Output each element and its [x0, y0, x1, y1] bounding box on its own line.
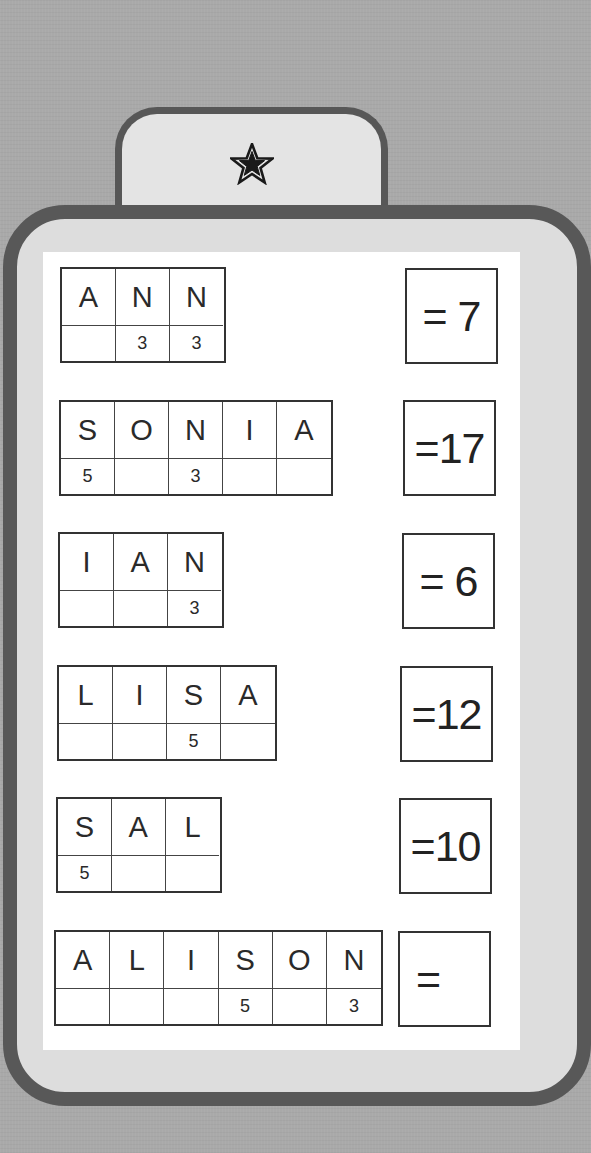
point-cell[interactable]: 3 — [170, 326, 224, 361]
point-cell[interactable] — [273, 989, 327, 1024]
answer-box[interactable]: = 6 — [402, 533, 495, 629]
letter-cell: N — [170, 269, 224, 326]
letter-grid: ALISON53 — [54, 930, 383, 1026]
answer-box[interactable]: = — [398, 931, 491, 1027]
letter-cell: A — [112, 799, 166, 856]
point-cell[interactable] — [223, 459, 277, 494]
point-cell[interactable] — [115, 459, 169, 494]
letter-grid: ANN33 — [60, 267, 226, 363]
point-cell[interactable]: 3 — [168, 591, 222, 626]
star-icon — [230, 143, 274, 185]
letter-cell: S — [58, 799, 112, 856]
point-cell[interactable] — [166, 856, 220, 891]
answer-box[interactable]: = 7 — [405, 268, 498, 364]
point-cell[interactable]: 3 — [169, 459, 223, 494]
letter-grid: LISA5 — [57, 665, 277, 761]
point-cell[interactable]: 3 — [116, 326, 170, 361]
answer-box[interactable]: =17 — [403, 400, 496, 496]
letter-cell: N — [168, 534, 222, 591]
letter-cell: L — [166, 799, 220, 856]
letter-cell: A — [221, 667, 275, 724]
point-cell[interactable] — [114, 591, 168, 626]
letter-cell: A — [277, 402, 331, 459]
letter-cell: I — [164, 932, 218, 989]
letter-cell: A — [114, 534, 168, 591]
point-cell[interactable] — [60, 591, 114, 626]
point-cell[interactable] — [110, 989, 164, 1024]
letter-cell: O — [273, 932, 327, 989]
letter-grid: SONIA53 — [59, 400, 333, 496]
answer-box[interactable]: =12 — [400, 666, 493, 762]
letter-cell: I — [113, 667, 167, 724]
point-cell[interactable] — [113, 724, 167, 759]
letter-cell: L — [110, 932, 164, 989]
letter-cell: L — [59, 667, 113, 724]
letter-cell: N — [116, 269, 170, 326]
point-cell[interactable] — [277, 459, 331, 494]
letter-cell: S — [219, 932, 273, 989]
point-cell[interactable] — [62, 326, 116, 361]
point-cell[interactable] — [221, 724, 275, 759]
letter-cell: I — [60, 534, 114, 591]
letter-cell: S — [61, 402, 115, 459]
letter-cell: O — [115, 402, 169, 459]
letter-grid: IAN3 — [58, 532, 224, 628]
letter-grid: SAL5 — [56, 797, 222, 893]
point-cell[interactable]: 5 — [219, 989, 273, 1024]
point-cell[interactable] — [164, 989, 218, 1024]
letter-cell: A — [56, 932, 110, 989]
letter-cell: A — [62, 269, 116, 326]
letter-cell: N — [169, 402, 223, 459]
letter-cell: N — [327, 932, 381, 989]
point-cell[interactable]: 5 — [61, 459, 115, 494]
point-cell[interactable]: 3 — [327, 989, 381, 1024]
point-cell[interactable] — [59, 724, 113, 759]
point-cell[interactable] — [112, 856, 166, 891]
point-cell[interactable]: 5 — [58, 856, 112, 891]
point-cell[interactable]: 5 — [167, 724, 221, 759]
letter-cell: I — [223, 402, 277, 459]
point-cell[interactable] — [56, 989, 110, 1024]
answer-box[interactable]: =10 — [399, 798, 492, 894]
letter-cell: S — [167, 667, 221, 724]
